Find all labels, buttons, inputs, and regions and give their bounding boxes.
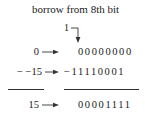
result-binary: 00001111	[78, 99, 132, 110]
